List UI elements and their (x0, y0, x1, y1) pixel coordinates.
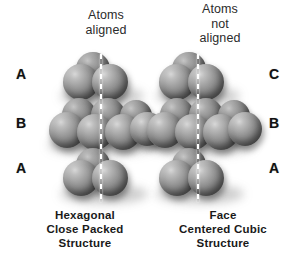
heading-left-line1: Atoms (46, 8, 166, 23)
caption-left-line2: Close Packed (20, 222, 150, 236)
fcc-layer-bottom-a (140, 148, 270, 204)
alignment-guide-line (197, 54, 199, 202)
caption-face-centered-cubic: Face Centered Cubic Structure (152, 208, 294, 250)
atom-sphere (188, 160, 224, 196)
fcc-sphere-stack (140, 52, 270, 202)
heading-atoms-aligned: Atoms aligned (46, 8, 166, 37)
caption-hexagonal-close-packed: Hexagonal Close Packed Structure (20, 208, 150, 250)
atom-sphere (188, 64, 224, 100)
alignment-guide-line (100, 54, 102, 202)
layer-label-right-a-bottom: A (262, 160, 286, 176)
caption-right-line2: Centered Cubic (152, 222, 294, 236)
atom-sphere (228, 112, 262, 146)
heading-right-line1: Atoms (160, 2, 280, 17)
packing-structure-figure: Atoms aligned Atoms not aligned (0, 0, 294, 262)
caption-left-line3: Structure (20, 236, 150, 250)
heading-right-line2: not (160, 17, 280, 32)
heading-left-line2: aligned (46, 23, 166, 38)
layer-label-left-a-bottom: A (9, 160, 33, 176)
layer-label-left-b-middle: B (9, 115, 33, 131)
caption-right-line1: Face (152, 208, 294, 222)
atom-sphere (92, 160, 128, 196)
fcc-layer-middle-b (140, 98, 270, 154)
layer-label-right-b-middle: B (262, 115, 286, 131)
layer-label-right-c-top: C (262, 66, 286, 82)
atom-sphere (92, 64, 128, 100)
caption-right-line3: Structure (152, 236, 294, 250)
caption-left-line1: Hexagonal (20, 208, 150, 222)
heading-atoms-not-aligned: Atoms not aligned (160, 2, 280, 46)
layer-label-left-a-top: A (9, 66, 33, 82)
heading-right-line3: aligned (160, 31, 280, 46)
